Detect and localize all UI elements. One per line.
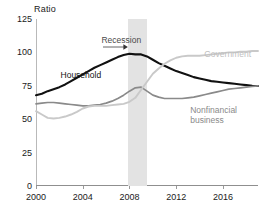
x-tick-mark-2000 <box>36 186 37 189</box>
nonfinancial-annotation: Nonfinancial business <box>190 106 242 126</box>
y-axis-title: Ratio <box>34 4 56 14</box>
x-tick-mark-2012 <box>176 186 177 189</box>
series-lines <box>36 19 258 186</box>
y-tick-label-0: 0 <box>27 181 32 191</box>
x-tick-label-2004: 2004 <box>73 192 93 202</box>
x-tick-label-2000: 2000 <box>26 192 46 202</box>
plot-area: 0255075100125 20002004200820122016 Reces… <box>36 19 258 186</box>
chart-footnote <box>2 202 265 209</box>
x-tick-mark-2016 <box>223 186 224 189</box>
recession-arrow-icon <box>103 43 128 51</box>
x-tick-mark-2008 <box>129 186 130 189</box>
ratio-line-chart: Ratio 0255075100125 20002004200820122016… <box>0 0 265 209</box>
series-line-nonfinancial-business <box>36 86 258 106</box>
x-tick-label-2016: 2016 <box>213 192 233 202</box>
y-tick-label-100: 100 <box>17 47 32 57</box>
x-tick-label-2008: 2008 <box>119 192 139 202</box>
y-tick-label-50: 50 <box>22 114 32 124</box>
y-tick-label-25: 25 <box>22 148 32 158</box>
household-annotation: Household <box>61 71 102 81</box>
government-annotation: Government <box>204 50 251 60</box>
x-tick-mark-2004 <box>83 186 84 189</box>
y-tick-label-125: 125 <box>17 14 32 24</box>
y-tick-label-75: 75 <box>22 81 32 91</box>
x-tick-label-2012: 2012 <box>166 192 186 202</box>
